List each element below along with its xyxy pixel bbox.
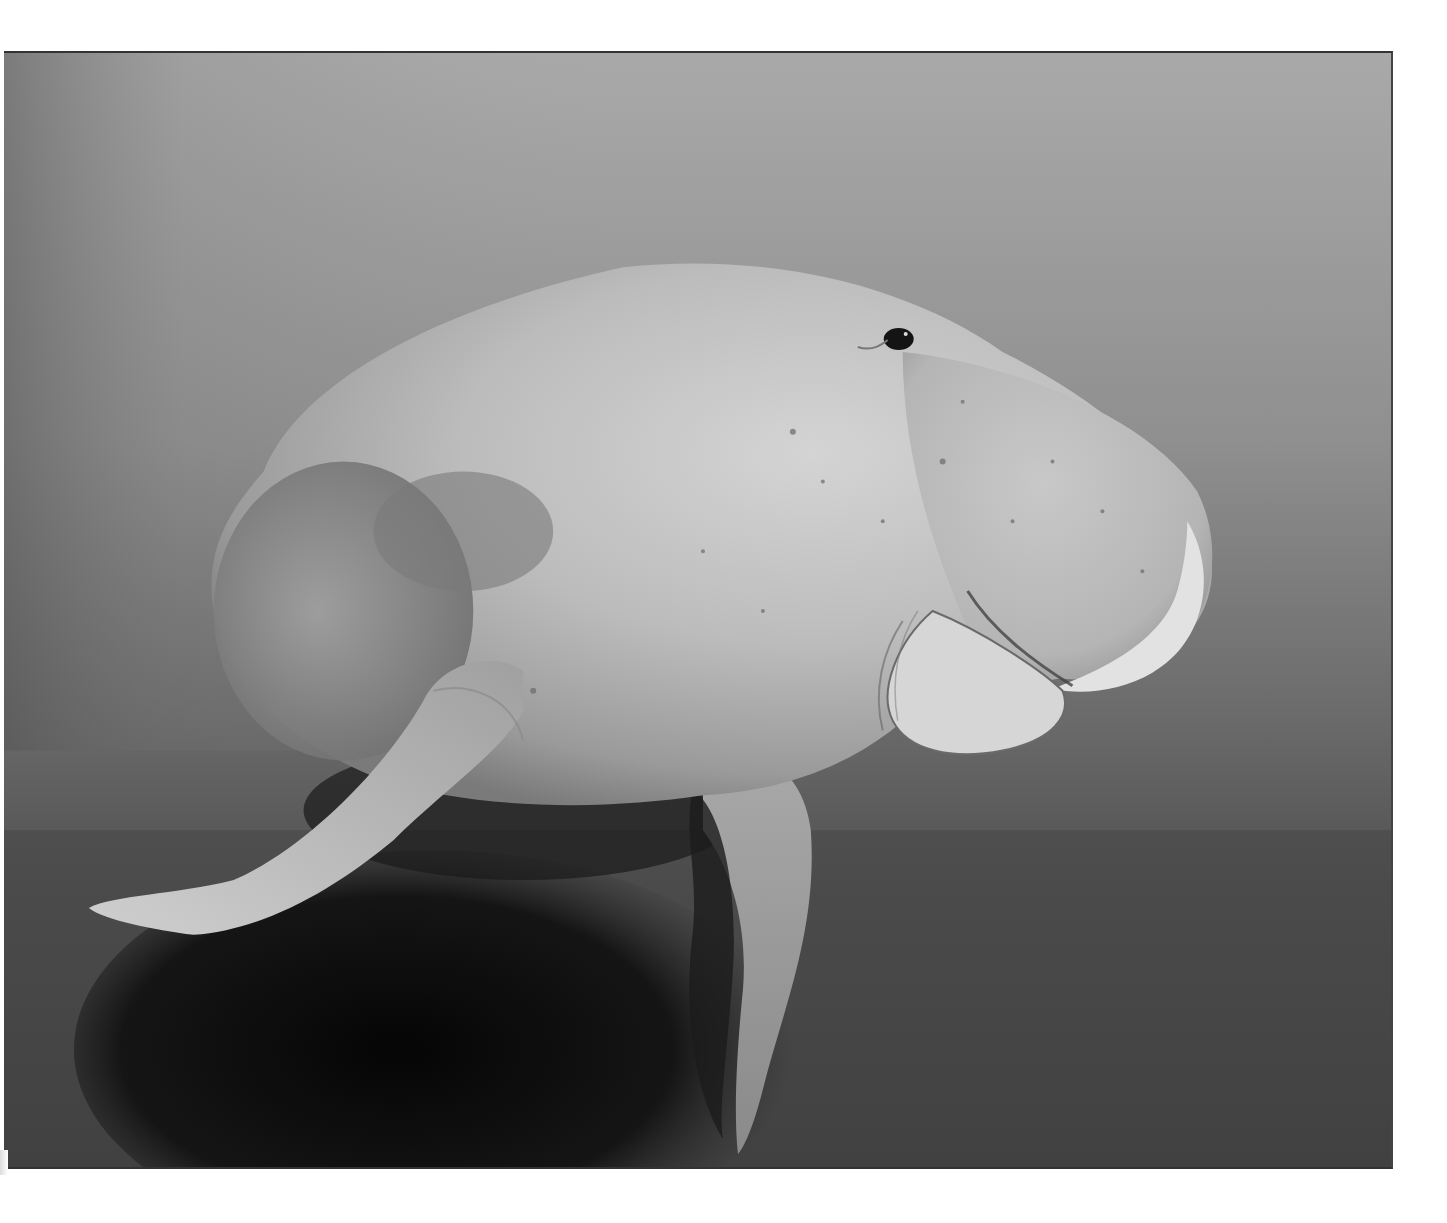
dugong-scene: [4, 53, 1391, 1167]
eye: [884, 328, 914, 350]
page-edge-shading: [0, 1150, 8, 1175]
dugong-photograph: [4, 51, 1393, 1169]
photo-caption: [84, 1203, 1384, 1223]
